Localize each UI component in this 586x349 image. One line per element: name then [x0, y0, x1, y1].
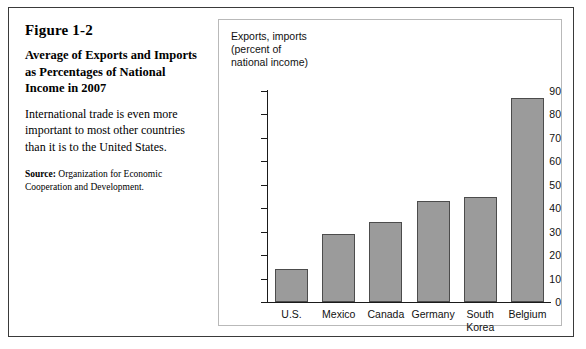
- y-tick-mark: [261, 302, 268, 303]
- figure-caption-column: Figure 1-2 Average of Exports and Import…: [9, 8, 211, 336]
- x-axis-category-label: Belgium: [504, 308, 551, 321]
- y-tick-mark: [261, 138, 268, 139]
- bar: [275, 269, 308, 302]
- x-axis-category-label: Mexico: [315, 308, 362, 321]
- x-axis-category-label: South Korea: [457, 308, 504, 334]
- figure-number: Figure 1-2: [25, 22, 197, 39]
- y-tick-mark: [261, 114, 268, 115]
- y-tick-mark: [261, 185, 268, 186]
- bar: [417, 201, 450, 302]
- y-tick-mark: [261, 208, 268, 209]
- plot-area: 0102030405060708090 U.S.MexicoCanadaGerm…: [219, 20, 561, 325]
- y-tick-mark: [261, 279, 268, 280]
- y-tick-mark: [261, 255, 268, 256]
- x-axis-category-label: Germany: [410, 308, 457, 321]
- figure-title: Average of Exports and Imports as Percen…: [25, 47, 197, 97]
- y-axis-line: [267, 90, 268, 303]
- figure-source-label: Source:: [25, 169, 56, 179]
- chart-panel: Exports, imports (percent of national in…: [218, 19, 562, 326]
- y-tick-mark: [261, 161, 268, 162]
- bar: [369, 222, 402, 302]
- y-tick-label: 90: [525, 85, 561, 97]
- figure-container: Figure 1-2 Average of Exports and Import…: [8, 7, 574, 337]
- bar: [322, 234, 355, 302]
- bar: [464, 197, 497, 303]
- x-axis-category-label: U.S.: [268, 308, 315, 321]
- x-axis-category-label: Canada: [362, 308, 409, 321]
- y-tick-mark: [261, 91, 268, 92]
- bar: [511, 98, 544, 302]
- figure-description: International trade is even more importa…: [25, 106, 197, 155]
- y-tick-mark: [261, 232, 268, 233]
- x-axis-line: [267, 302, 551, 303]
- figure-source: Source: Organization for Economic Cooper…: [25, 168, 197, 194]
